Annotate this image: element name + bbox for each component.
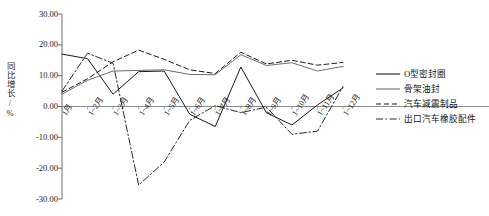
legend-item: O型密封圈 xyxy=(376,66,489,81)
y-tick-label: 10.00 xyxy=(22,71,58,80)
legend-item: 汽车减震制品 xyxy=(376,96,489,111)
series-line-3 xyxy=(62,50,343,92)
series-line-1 xyxy=(62,54,343,126)
legend-swatch-2 xyxy=(376,84,400,94)
legend-swatch-1 xyxy=(376,69,400,79)
y-tick-label: -30.00 xyxy=(22,195,58,204)
legend-label: 出口汽车橡胶配件 xyxy=(404,114,476,124)
y-tick-label: 30.00 xyxy=(22,10,58,19)
legend-item: 骨架油封 xyxy=(376,81,489,96)
legend-item: 出口汽车橡胶配件 xyxy=(376,111,489,126)
y-tick-label: -20.00 xyxy=(22,164,58,173)
y-axis-title: 同比增长/% xyxy=(0,62,14,118)
y-axis-tick-labels: 30.0020.0010.000.00-10.00-20.00-30.00 xyxy=(18,0,58,216)
series-line-4 xyxy=(62,53,343,185)
y-tick-label: 20.00 xyxy=(22,40,58,49)
legend-swatch-3 xyxy=(376,99,400,109)
legend-label: 汽车减震制品 xyxy=(404,99,458,109)
chart-container: 同比增长/% 30.0020.0010.000.00-10.00-20.00-3… xyxy=(0,0,489,216)
series-line-2 xyxy=(62,55,343,94)
y-tick-label: 0.00 xyxy=(22,102,58,111)
y-tick-label: -10.00 xyxy=(22,133,58,142)
legend-swatch-4 xyxy=(376,114,400,124)
chart-legend: O型密封圈骨架油封汽车减震制品出口汽车橡胶配件 xyxy=(376,66,489,126)
legend-label: O型密封圈 xyxy=(404,69,446,79)
legend-label: 骨架油封 xyxy=(404,84,440,94)
